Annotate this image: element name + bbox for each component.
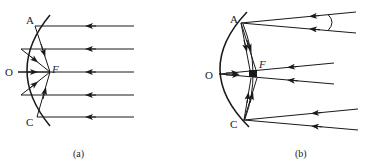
arrow-icon — [291, 66, 298, 67]
arrow-icon — [30, 56, 35, 60]
label-a-focus-f: F — [51, 63, 59, 75]
label-a-point-c: C — [26, 116, 33, 128]
arrow-icon — [315, 113, 322, 114]
arrow-icon — [313, 16, 320, 17]
optics-diagram: A O F C (a) — [0, 0, 370, 168]
caption-b: (b) — [295, 148, 307, 160]
arrow-icon — [291, 80, 298, 81]
label-b-focus-f: F — [258, 58, 266, 70]
concave-mirror-a — [27, 15, 50, 126]
reflected-ray — [21, 49, 50, 72]
arrow-icon — [315, 126, 322, 127]
panel-b — [219, 12, 358, 130]
incident-ray — [244, 109, 358, 120]
arrow-icon — [30, 84, 35, 88]
arrow-icon — [313, 29, 320, 30]
incident-ray — [241, 23, 356, 33]
label-a-vertex-o: O — [5, 66, 13, 78]
label-b-vertex-o: O — [205, 69, 213, 81]
reflected-ray — [21, 72, 50, 95]
label-b-point-c: C — [230, 118, 237, 130]
focal-region — [249, 70, 257, 77]
incident-ray — [219, 63, 334, 74]
panel-a — [18, 15, 134, 126]
incident-ray — [219, 74, 334, 84]
label-b-point-a: A — [230, 13, 238, 25]
caption-a: (a) — [73, 148, 84, 160]
label-a-point-a: A — [26, 14, 34, 26]
arrow-icon — [247, 96, 248, 103]
arrow-icon — [244, 40, 246, 48]
angle-marker — [328, 15, 332, 31]
incident-ray — [244, 120, 358, 130]
incident-ray — [241, 12, 356, 23]
